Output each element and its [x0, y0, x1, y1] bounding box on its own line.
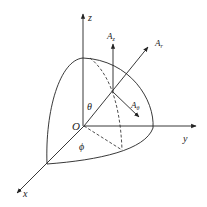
- meridian-dashed: [90, 58, 122, 150]
- phi-label: ϕ: [79, 141, 84, 152]
- surface-left-curve: [47, 58, 83, 164]
- a-r-label: Ar: [154, 38, 164, 49]
- z-axis-label: z: [87, 12, 92, 23]
- a-z-label: Az: [106, 31, 116, 42]
- phi-projection-dashed: [84, 126, 122, 150]
- x-axis-label: x: [22, 188, 28, 199]
- spherical-coordinates-diagram: z y x O θ ϕ Az Ar Aθ: [0, 0, 207, 207]
- x-axis: [17, 126, 84, 193]
- surface-bottom-curve: [47, 128, 153, 164]
- origin-label: O: [72, 120, 80, 132]
- a-theta-label: Aθ: [130, 100, 140, 111]
- y-axis-label: y: [182, 133, 188, 144]
- surface-right-curve: [83, 58, 153, 128]
- theta-label: θ: [87, 101, 92, 112]
